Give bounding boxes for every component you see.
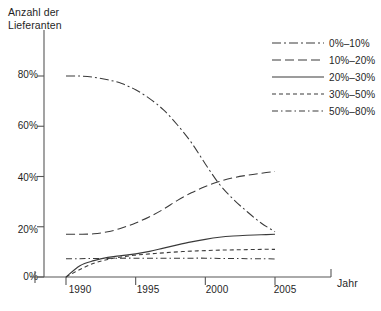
legend-swatches (272, 43, 324, 111)
series-line-4 (66, 258, 275, 259)
series-line-0 (66, 76, 275, 232)
chart-plot-area (0, 0, 381, 311)
series-line-1 (66, 171, 275, 234)
series-line-3 (66, 249, 275, 277)
series-line-2 (66, 234, 275, 277)
series-lines (66, 76, 275, 277)
chart-container: Anzahl derLieferanten Jahr 80% 60% 40% 2… (0, 0, 381, 311)
axis-lines (30, 30, 331, 277)
